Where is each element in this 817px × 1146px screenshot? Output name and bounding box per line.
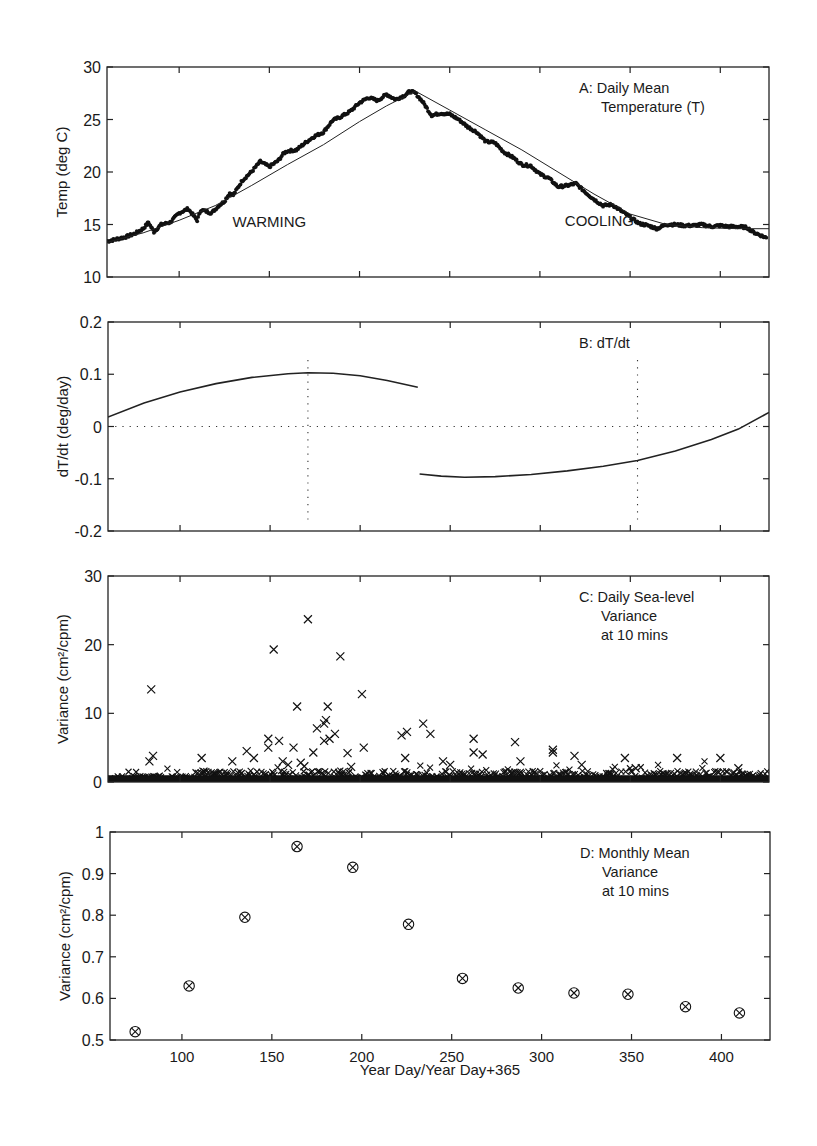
- y-tick-label: 0.5: [82, 1032, 104, 1049]
- x-marker: [198, 754, 206, 762]
- x-marker: [446, 761, 454, 769]
- axes-frame: [110, 832, 770, 1040]
- figure: 1015202530Temp (deg C)A: Daily MeanTempe…: [0, 0, 817, 1146]
- panel-c-daily-variance: 0102030Variance (cm²/cpm)C: Daily Sea-le…: [54, 568, 771, 791]
- x-marker: [358, 690, 366, 698]
- x-marker: [313, 724, 321, 732]
- x-marker: [264, 735, 272, 743]
- y-tick-label: 10: [83, 269, 101, 286]
- y-tick-label: 20: [83, 164, 101, 181]
- y-tick-label: -0.1: [74, 471, 102, 488]
- y-tick-label: 30: [83, 59, 101, 76]
- x-marker: [145, 757, 153, 765]
- y-axis-label: Variance (cm²/cpm): [54, 614, 71, 744]
- panel-d-monthly-variance: 1001502002503003504000.50.60.70.80.91Var…: [56, 824, 770, 1065]
- circle-x-marker: [623, 989, 633, 999]
- x-marker: [632, 764, 640, 772]
- baseline-marker-band: [105, 758, 771, 785]
- circle-x-marker: [569, 988, 579, 998]
- x-marker: [716, 754, 724, 762]
- panel-title: A: Daily Mean: [579, 80, 669, 96]
- y-tick-label: 0.7: [82, 949, 104, 966]
- x-marker: [570, 752, 578, 760]
- x-marker: [516, 757, 524, 765]
- x-tick-label: 150: [259, 1048, 284, 1065]
- x-marker: [304, 615, 312, 623]
- x-marker: [290, 744, 298, 752]
- x-marker: [264, 744, 272, 752]
- y-tick-label: 1: [95, 824, 104, 841]
- circle-x-marker: [240, 912, 250, 922]
- x-marker: [336, 652, 344, 660]
- y-tick-label: 30: [84, 568, 102, 585]
- x-marker: [426, 730, 434, 738]
- panel-title: D: Monthly Mean: [580, 845, 690, 861]
- x-marker: [344, 749, 352, 757]
- y-tick-label: 0: [93, 774, 102, 791]
- circle-x-marker: [348, 862, 358, 872]
- circle-x-marker: [734, 1008, 744, 1018]
- y-tick-label: 0: [93, 419, 102, 436]
- y-tick-label: -0.2: [74, 523, 102, 540]
- y-tick-label: 0.2: [80, 314, 102, 331]
- x-marker: [149, 752, 157, 760]
- x-marker: [401, 754, 409, 762]
- x-marker: [419, 720, 427, 728]
- panel-title: at 10 mins: [601, 627, 668, 643]
- panel-title: B: dT/dt: [579, 335, 630, 351]
- x-marker: [331, 730, 339, 738]
- x-tick-label: 100: [169, 1048, 194, 1065]
- series-line: [108, 373, 418, 417]
- y-tick-label: 10: [84, 705, 102, 722]
- circle-x-marker: [184, 981, 194, 991]
- axes-frame: [108, 576, 769, 782]
- y-axis-label: dT/dt (deg/day): [54, 376, 71, 478]
- circle-x-marker: [403, 919, 413, 929]
- x-marker: [578, 761, 586, 769]
- panel-title: Variance: [601, 608, 657, 624]
- x-marker: [228, 757, 236, 765]
- circle-x-marker: [513, 983, 523, 993]
- x-marker: [322, 716, 330, 724]
- panel-title: at 10 mins: [602, 883, 669, 899]
- plot-area: [105, 615, 771, 785]
- x-tick-label: 300: [529, 1048, 554, 1065]
- x-marker: [470, 735, 478, 743]
- x-marker: [147, 685, 155, 693]
- x-marker: [243, 747, 251, 755]
- x-marker: [673, 754, 681, 762]
- x-marker: [360, 744, 368, 752]
- x-marker: [275, 737, 283, 745]
- y-tick-label: 0.6: [82, 990, 104, 1007]
- x-marker: [309, 748, 317, 756]
- panel-title: C: Daily Sea-level: [579, 589, 694, 605]
- circle-x-marker: [292, 841, 302, 851]
- x-marker: [511, 738, 519, 746]
- annotation-cooling: COOLING: [565, 212, 634, 229]
- plot-area: [108, 360, 769, 525]
- x-marker: [293, 702, 301, 710]
- x-marker: [621, 754, 629, 762]
- x-marker: [439, 757, 447, 765]
- annotation-warming: WARMING: [233, 213, 307, 230]
- panel-title: Variance: [602, 864, 658, 880]
- x-tick-label: 400: [709, 1048, 734, 1065]
- series-line: [420, 412, 769, 477]
- x-marker: [324, 702, 332, 710]
- x-marker: [470, 748, 478, 756]
- circle-x-marker: [680, 1002, 690, 1012]
- y-axis-label: Variance (cm²/cpm): [56, 871, 73, 1001]
- panel-b-dtdt: -0.2-0.100.10.2dT/dt (deg/day)B: dT/dt: [54, 314, 769, 540]
- panel-title: Temperature (T): [601, 99, 705, 115]
- x-marker: [300, 762, 308, 770]
- circle-x-marker: [130, 1026, 140, 1036]
- x-marker: [479, 751, 487, 759]
- y-axis-label: Temp (deg C): [53, 127, 70, 218]
- x-axis-label: Year Day/Year Day+365: [360, 1061, 520, 1078]
- y-tick-label: 20: [84, 637, 102, 654]
- panel-a-daily-mean-temperature: 1015202530Temp (deg C)A: Daily MeanTempe…: [53, 59, 769, 286]
- y-tick-label: 25: [83, 112, 101, 129]
- x-tick-label: 350: [619, 1048, 644, 1065]
- circle-x-marker: [457, 973, 467, 983]
- x-marker: [270, 645, 278, 653]
